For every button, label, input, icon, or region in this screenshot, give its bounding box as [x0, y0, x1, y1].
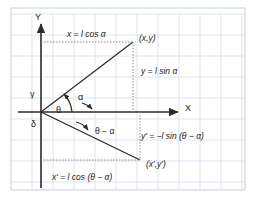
y-prime-projection-equation: y' = −l sin (θ − α): [141, 131, 204, 141]
gamma-angle-label: γ: [30, 89, 35, 99]
canvas-background: [0, 0, 256, 202]
upper-point-label: (x,y): [139, 33, 156, 43]
lower-point-label: (x',y'): [146, 159, 166, 169]
x-prime-projection-equation: x' = l cos (θ − α): [52, 172, 112, 182]
y-axis-label: Y: [35, 12, 41, 22]
theta-angle-label: θ: [56, 105, 61, 115]
diagram-svg: [0, 0, 256, 202]
x-projection-equation: x = l cos α: [67, 29, 106, 39]
diagram-canvas: Y X x = l cos α y = l sin α y' = −l sin …: [0, 0, 256, 202]
x-axis-label: X: [185, 103, 191, 113]
delta-angle-label: δ: [31, 119, 36, 129]
theta-minus-alpha-angle-label: θ − α: [95, 126, 114, 136]
y-projection-equation: y = l sin α: [141, 66, 177, 76]
alpha-angle-label: α: [78, 92, 83, 102]
